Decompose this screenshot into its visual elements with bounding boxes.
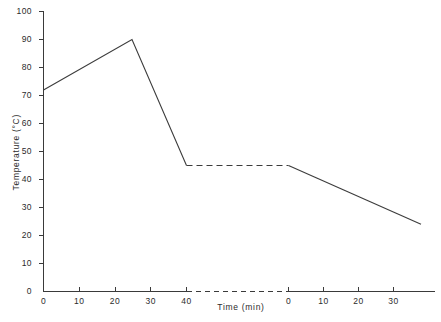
x-tick-label-seg2-30: 30 [382, 297, 406, 306]
chart-plot-area [0, 0, 441, 322]
x-tick-label-seg1-0: 0 [32, 297, 56, 306]
series-line-slow-cooling [289, 166, 422, 225]
y-tick-label-10: 10 [6, 259, 32, 268]
x-tick-label-seg2-20: 20 [347, 297, 371, 306]
y-tick-label-100: 100 [6, 7, 32, 16]
x-tick-label-seg1-20: 20 [103, 297, 127, 306]
y-tick-label-90: 90 [6, 35, 32, 44]
chart-figure: 100 90 80 70 60 50 40 30 20 10 0 0 10 20… [0, 0, 441, 322]
y-tick-label-20: 20 [6, 231, 32, 240]
x-tick-label-seg1-10: 10 [67, 297, 91, 306]
series-line-heating-cooling [44, 40, 187, 166]
y-tick-marks [39, 12, 44, 264]
x-tick-label-seg1-30: 30 [139, 297, 163, 306]
y-axis-title: Temperature (°C) [12, 102, 21, 202]
y-tick-label-80: 80 [6, 63, 32, 72]
x-tick-label-seg2-10: 10 [312, 297, 336, 306]
y-tick-label-70: 70 [6, 91, 32, 100]
x-tick-marks [44, 287, 394, 292]
y-tick-label-0: 0 [6, 287, 32, 296]
x-axis-title: Time (min) [186, 303, 296, 312]
y-tick-label-30: 30 [6, 203, 32, 212]
